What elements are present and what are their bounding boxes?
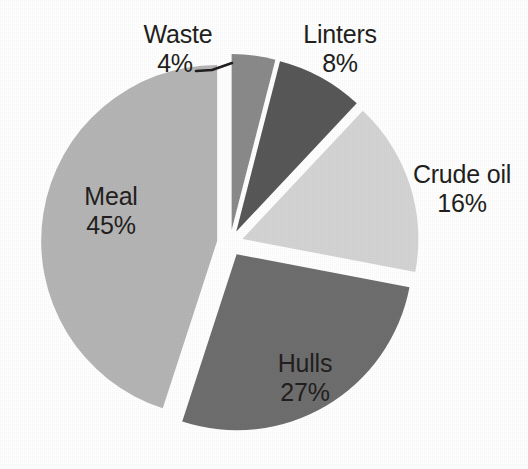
pie-chart-canvas [0,0,528,469]
pie-slice-meal [41,65,217,408]
pie-slice-hulls [182,254,409,430]
pie-slice-group [41,54,418,430]
pie-chart: Waste 4% Linters 8% Crude oil 16% Hulls … [0,0,528,469]
